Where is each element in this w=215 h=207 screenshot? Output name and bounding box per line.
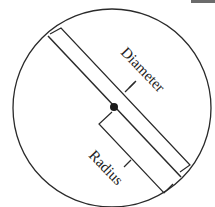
- diameter-bracket-tick: [129, 81, 136, 88]
- diameter-label: Diameter: [118, 44, 168, 95]
- radius-bracket-tick: [124, 160, 131, 167]
- center-point: [110, 103, 118, 111]
- radius-label: Radius: [86, 147, 127, 188]
- circle-diagram: Diameter Radius: [0, 0, 215, 207]
- diameter-bracket: [50, 28, 190, 172]
